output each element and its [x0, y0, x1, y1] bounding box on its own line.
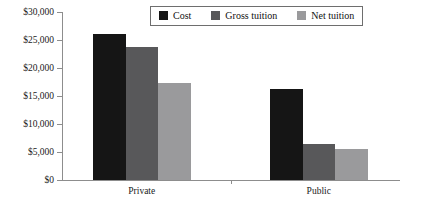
y-axis-tick	[57, 68, 62, 69]
x-axis-tick	[231, 180, 232, 184]
y-axis-tick	[57, 152, 62, 153]
x-axis-category-label: Private	[128, 186, 155, 196]
y-axis-tick	[57, 96, 62, 97]
legend-swatch-icon	[211, 11, 220, 20]
bar	[126, 47, 159, 180]
y-axis-tick-label: $20,000	[23, 63, 54, 73]
legend-label: Cost	[173, 10, 191, 21]
y-axis-tick-label: $30,000	[23, 7, 54, 17]
legend-item: Cost	[159, 10, 191, 21]
legend-label: Net tuition	[311, 10, 354, 21]
y-axis-tick-label: $5,000	[28, 147, 54, 157]
y-axis-tick-label: $25,000	[23, 35, 54, 45]
legend-swatch-icon	[297, 11, 306, 20]
bar-chart: $0$5,000$10,000$15,000$20,000$25,000$30,…	[0, 0, 422, 210]
legend-item: Net tuition	[297, 10, 354, 21]
bar	[335, 149, 368, 180]
bar	[270, 89, 303, 180]
bar	[158, 83, 191, 180]
bar	[93, 34, 126, 180]
legend-item: Gross tuition	[211, 10, 277, 21]
legend-label: Gross tuition	[225, 10, 277, 21]
y-axis-tick	[57, 40, 62, 41]
y-axis-tick	[57, 180, 62, 181]
y-axis-tick-label: $15,000	[23, 91, 54, 101]
y-axis-tick-label: $10,000	[23, 119, 54, 129]
y-axis-tick	[57, 12, 62, 13]
chart-legend: CostGross tuitionNet tuition	[150, 6, 363, 26]
legend-swatch-icon	[159, 11, 168, 20]
y-axis-tick	[57, 124, 62, 125]
x-axis-category-label: Public	[307, 186, 331, 196]
bar	[303, 144, 336, 180]
y-axis-line	[62, 12, 63, 180]
y-axis-tick-label: $0	[45, 175, 55, 185]
